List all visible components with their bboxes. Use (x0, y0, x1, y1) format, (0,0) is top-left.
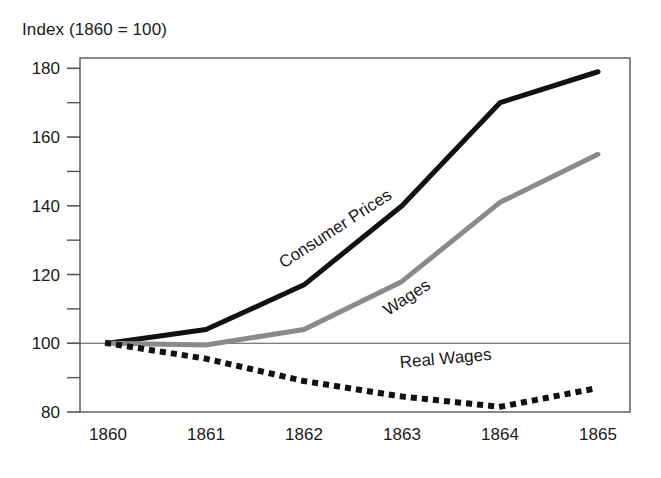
x-axis-tick-label: 1860 (89, 425, 127, 444)
x-axis-tick-label: 1864 (481, 425, 519, 444)
x-axis-tick-label: 1865 (579, 425, 617, 444)
y-axis-tick-label: 180 (32, 59, 60, 78)
y-axis-tick-label: 80 (41, 403, 60, 422)
x-axis-tick-label: 1863 (383, 425, 421, 444)
y-axis-tick-label: 100 (32, 334, 60, 353)
chart-plot-area: 8010012014016018018601861186218631864186… (0, 0, 661, 478)
y-axis-tick-label: 140 (32, 197, 60, 216)
plot-frame (80, 58, 630, 412)
x-axis-tick-label: 1861 (187, 425, 225, 444)
y-axis-tick-label: 120 (32, 266, 60, 285)
x-axis-tick-label: 1862 (285, 425, 323, 444)
chart-root: Index (1860 = 100) 801001201401601801860… (0, 0, 661, 478)
y-axis-tick-label: 160 (32, 128, 60, 147)
